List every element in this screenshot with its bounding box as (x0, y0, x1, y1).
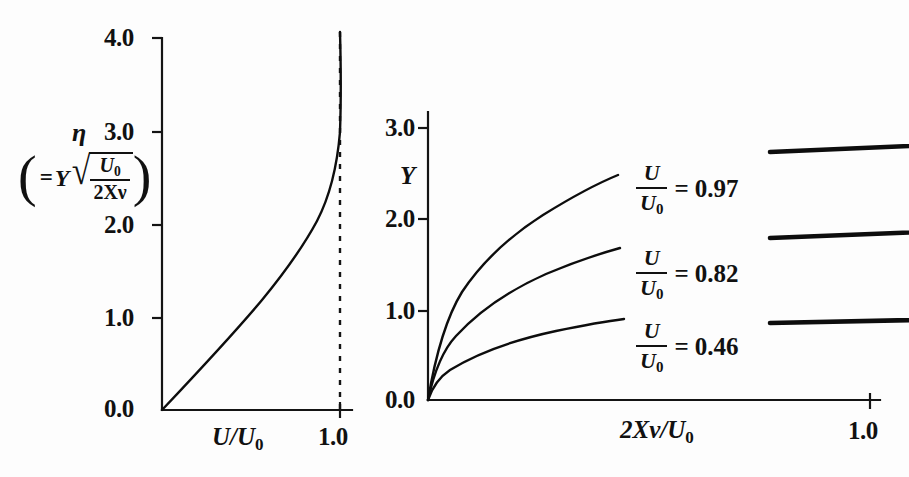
legend-097-value: = 0.97 (674, 175, 738, 203)
right-x-axis-label: 2Xν/U0 (620, 417, 694, 446)
radical-sign: √ (72, 155, 91, 206)
legend-097-den-U: U (640, 190, 656, 215)
left-ytick-label-4: 4.0 (104, 25, 134, 50)
numerator-subscript: 0 (114, 164, 121, 179)
right-curve-097-right (770, 131, 909, 152)
left-y-axis-symbol-eta: η (72, 120, 86, 146)
right-ytick-label-0: 0.0 (385, 387, 415, 412)
right-ytick-label-1: 1.0 (385, 298, 415, 323)
fraction-numerator: U0 (90, 155, 129, 179)
right-xtick-label-1p0: 1.0 (848, 418, 878, 443)
legend-item-097: U U0 = 0.97 (636, 160, 739, 218)
legend-097-denominator: U0 (636, 187, 667, 218)
equals-sign: = (40, 166, 53, 189)
left-ytick-label-2: 2.0 (104, 212, 134, 237)
left-x-axis-label-sub: 0 (255, 435, 264, 454)
right-x-axis-label-main: 2Xν/U (620, 416, 685, 443)
legend-082-den-sub: 0 (656, 286, 663, 302)
legend-046-denominator: U0 (636, 345, 667, 376)
legend-046-den-sub: 0 (656, 359, 663, 375)
left-xtick-label-1p0: 1.0 (318, 424, 348, 449)
legend-046-value: = 0.46 (674, 333, 738, 361)
variable-Y: Y (55, 166, 70, 190)
left-x-axis-label-main: U/U (212, 423, 255, 450)
boundary-layer-figure: 4.0 3.0 2.0 1.0 0.0 η ( = Y √ U0 2Xν ) (0, 0, 909, 477)
panel-right-boundary-layer-growth: 3.0 2.0 1.0 0.0 Y U U0 = 0.97 U U0 = 0.8… (380, 0, 909, 477)
left-blasius-curve (162, 32, 341, 410)
legend-046-den-U: U (640, 348, 656, 373)
legend-item-046: U U0 = 0.46 (636, 318, 739, 376)
legend-item-082: U U0 = 0.82 (636, 245, 739, 303)
legend-097-den-sub: 0 (656, 201, 663, 217)
sqrt-group: √ U0 2Xν (70, 152, 132, 203)
left-x-axis-label: U/U0 (212, 424, 264, 453)
right-y-axis-symbol: Y (400, 163, 415, 188)
left-ytick-label-0: 0.0 (104, 396, 134, 421)
legend-097-numerator: U (636, 160, 667, 187)
legend-082-denominator: U0 (636, 272, 667, 303)
legend-082-numerator: U (636, 245, 667, 272)
left-y-axis-definition: ( = Y √ U0 2Xν ) (18, 152, 151, 203)
legend-fraction-082: U U0 (636, 245, 667, 303)
right-curve-082-right (770, 219, 909, 238)
legend-046-numerator: U (636, 318, 667, 345)
numerator-U: U (99, 154, 113, 176)
legend-082-value: = 0.82 (674, 260, 738, 288)
left-ytick-label-1: 1.0 (104, 305, 134, 330)
right-ytick-label-3: 3.0 (385, 115, 415, 140)
left-ytick-label-3: 3.0 (104, 119, 134, 144)
right-curve-046-right (770, 313, 909, 323)
legend-fraction-046: U U0 (636, 318, 667, 376)
panel-right-svg (380, 0, 909, 477)
fraction-U0-over-2Xv: U0 2Xν (90, 155, 129, 202)
right-x-axis-label-sub: 0 (685, 428, 694, 447)
right-ytick-label-2: 2.0 (385, 206, 415, 231)
right-curve-046-left (428, 319, 624, 400)
radicand: U0 2Xν (89, 152, 132, 203)
fraction-denominator: 2Xν (90, 179, 129, 202)
legend-082-den-U: U (640, 275, 656, 300)
legend-fraction-097: U U0 (636, 160, 667, 218)
